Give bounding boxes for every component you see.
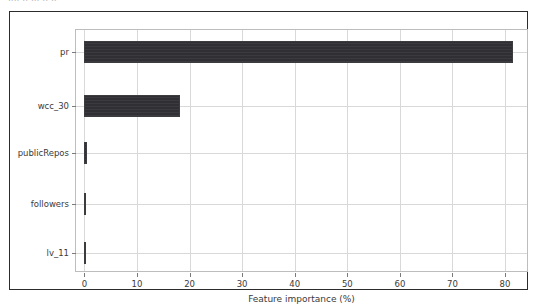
bar-lv-11 [84, 242, 86, 264]
gridline-vertical [400, 30, 401, 271]
gridline-horizontal [76, 153, 527, 154]
y-tick [72, 253, 76, 254]
y-tick-label-publicrepos: publicRepos [18, 148, 69, 158]
y-tick-label-followers: followers [31, 199, 69, 209]
gridline-vertical [190, 30, 191, 271]
x-tick [190, 273, 191, 277]
x-tick [347, 273, 348, 277]
x-tick-label-70: 70 [447, 279, 458, 289]
x-tick [505, 273, 506, 277]
gridline-vertical [505, 30, 506, 271]
y-tick [72, 106, 76, 107]
x-tick-label-50: 50 [342, 279, 353, 289]
gridline-vertical [347, 30, 348, 271]
x-tick-label-60: 60 [394, 279, 405, 289]
gridline-vertical [295, 30, 296, 271]
y-tick [72, 52, 76, 53]
y-tick-label-lv-11: lv_11 [47, 248, 69, 258]
y-tick-label-wcc-30: wcc_30 [38, 101, 69, 111]
figure-output-frame: pr wcc_30 publicRepos followers lv_11 0 … [9, 11, 528, 290]
x-tick-label-0: 0 [82, 279, 87, 289]
x-tick [452, 273, 453, 277]
bar-publicrepos [84, 142, 86, 164]
y-tick [72, 204, 76, 205]
gridline-horizontal [76, 204, 527, 205]
bar-wcc-30 [84, 95, 180, 117]
x-tick [137, 273, 138, 277]
gridline-vertical [242, 30, 243, 271]
x-tick [400, 273, 401, 277]
x-axis-label: Feature importance (%) [76, 294, 527, 304]
y-tick-label-pr: pr [60, 47, 69, 57]
x-tick-label-30: 30 [237, 279, 248, 289]
y-tick [72, 153, 76, 154]
clipped-header-text: .... .. ... .. .. [8, 0, 57, 3]
x-tick-label-80: 80 [500, 279, 511, 289]
x-tick-label-40: 40 [289, 279, 300, 289]
gridline-vertical [452, 30, 453, 271]
x-tick [84, 273, 85, 277]
plot-area: pr wcc_30 publicRepos followers lv_11 0 … [75, 29, 528, 272]
bar-followers [84, 193, 86, 215]
x-tick-label-20: 20 [184, 279, 195, 289]
x-tick-label-10: 10 [132, 279, 143, 289]
bar-pr [84, 41, 513, 63]
x-tick [242, 273, 243, 277]
gridline-horizontal [76, 253, 527, 254]
gridline-vertical [137, 30, 138, 271]
x-tick [295, 273, 296, 277]
